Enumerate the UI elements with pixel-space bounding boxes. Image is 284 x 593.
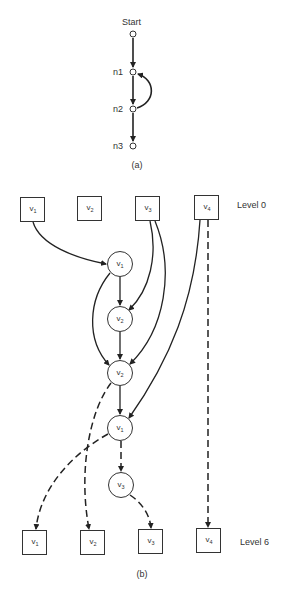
circle-v1-upper-label: v1 [116, 259, 123, 270]
circle-v1-lower-label: v1 [116, 423, 123, 434]
edge-t3-c3 [130, 221, 165, 364]
caption-b: (b) [137, 569, 148, 579]
edge-t4-c4 [129, 220, 200, 418]
n3-node [130, 143, 137, 150]
caption-a: (a) [132, 160, 143, 170]
start-label: Start [122, 17, 141, 27]
n1-label: n1 [113, 67, 123, 77]
n3-label: n3 [113, 141, 123, 151]
bottom-box-v3-label: v3 [147, 536, 154, 547]
edge-c4-b1 [36, 434, 108, 529]
circle-v3-label: v3 [117, 480, 124, 491]
top-box-v2-label: v2 [86, 203, 93, 214]
edge-t1-c1 [33, 222, 106, 264]
top-box-v3-label: v3 [144, 203, 151, 214]
n2-node [130, 106, 137, 113]
top-box-v4-label: v4 [203, 202, 210, 213]
edge-c3-b2 [85, 383, 111, 529]
n2-label: n2 [113, 104, 123, 114]
diagram-canvas [0, 0, 284, 593]
bottom-box-v1-label: v1 [31, 537, 38, 548]
bottom-box-v2-label: v2 [89, 537, 96, 548]
edge-n2-n1-arc [137, 74, 151, 108]
level-0-label: Level 0 [237, 200, 266, 210]
edge-c5-b3 [130, 495, 151, 528]
level-6-label: Level 6 [240, 537, 269, 547]
circle-v2-lower-label: v2 [116, 368, 123, 379]
start-node [130, 31, 137, 38]
n1-node [130, 69, 137, 76]
bottom-box-v4-label: v4 [205, 535, 212, 546]
top-box-v1-label: v1 [29, 204, 36, 215]
part-a-edges [133, 38, 151, 141]
circle-v2-upper-label: v2 [116, 314, 123, 325]
